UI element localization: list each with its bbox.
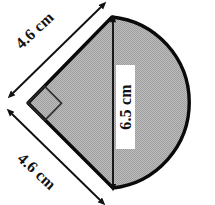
dimension-label-diameter: 6.5 cm [118, 84, 134, 130]
dimension-label-diameter-box: 6.5 cm [116, 65, 135, 149]
geometry-figure: 4.6 cm 4.6 cm 6.5 cm [0, 0, 215, 205]
composite-shape [28, 17, 189, 188]
